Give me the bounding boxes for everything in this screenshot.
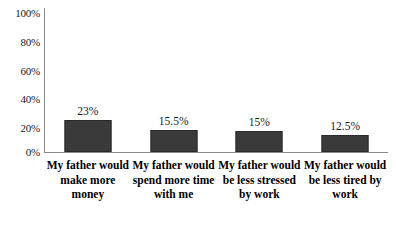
bar-value-label: 23% [77,105,98,117]
y-axis-tick-label: 0% [0,147,40,158]
x-axis-category-label: My father would be less tired by work [302,158,388,202]
bar-value-label: 12.5% [330,120,360,132]
y-axis-tick-label: 40% [0,94,40,105]
y-axis-tick-label: 20% [0,123,40,134]
plot-area: 23% 15.5% 15% 12.5% [45,12,388,152]
x-axis-category-labels: My father would make more money My fathe… [45,158,388,232]
bar-chart: 100% 80% 60% 40% 20% 0% 23% 15.5% 15% 12… [0,0,396,232]
bar [322,135,369,153]
y-axis-tick-label: 60% [0,66,40,77]
bar [64,120,111,152]
x-axis-category-label: My father would make more money [45,158,131,202]
bar-value-label: 15% [249,116,270,128]
x-axis-line [44,152,388,153]
bar-group: 15.5% [131,12,217,152]
bar [236,131,283,152]
bar-group: 23% [45,12,131,152]
bar-group: 12.5% [302,12,388,152]
bar-group: 15% [217,12,303,152]
bar [150,130,197,152]
y-axis-labels: 100% 80% 60% 40% 20% 0% [0,0,40,232]
bar-value-label: 15.5% [159,115,189,127]
y-axis-tick-label: 100% [0,8,40,19]
x-axis-category-label: My father would spend more time with me [131,158,217,202]
x-axis-category-label: My father would be less stressed by work [217,158,303,202]
y-axis-tick-label: 80% [0,37,40,48]
